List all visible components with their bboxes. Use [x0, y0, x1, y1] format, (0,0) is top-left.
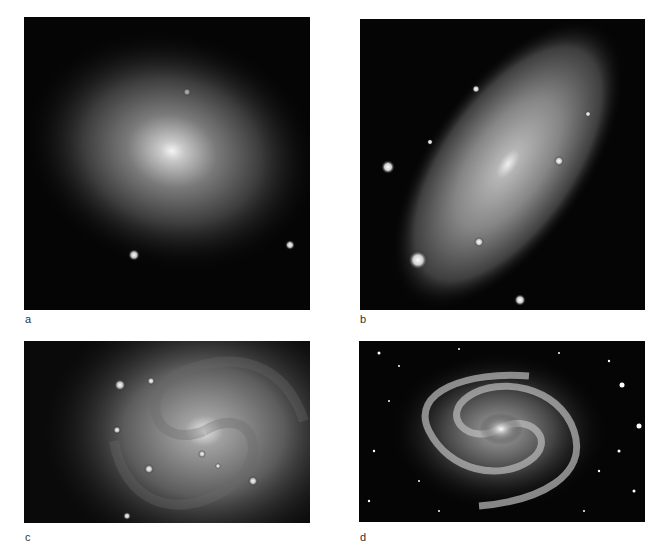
panel-d-barred-spiral-image — [359, 341, 645, 522]
panel-c-spiral-closeup-image — [24, 341, 310, 523]
panel-a-label: a — [25, 314, 31, 325]
barred-spiral-graphic — [359, 341, 645, 522]
panel-b-label: b — [360, 314, 366, 325]
elliptical-galaxy-graphic — [24, 17, 310, 310]
panel-c-label: c — [25, 532, 31, 543]
panel-a-elliptical-galaxy-image — [24, 17, 310, 310]
panel-b-inclined-galaxy-image — [360, 19, 645, 310]
inclined-galaxy-graphic — [360, 19, 645, 310]
spiral-closeup-graphic — [24, 341, 310, 523]
panel-d-label: d — [360, 532, 366, 543]
